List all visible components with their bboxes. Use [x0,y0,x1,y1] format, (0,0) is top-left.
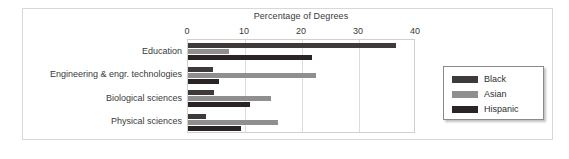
plot-area [187,39,415,133]
legend-swatch [452,106,478,113]
bar[interactable] [188,55,312,60]
bar-group [188,67,414,84]
chart-title: Percentage of Degrees [187,11,415,21]
bar[interactable] [188,79,219,84]
x-axis-tick-label: 10 [239,26,249,36]
legend-swatch [452,91,478,98]
y-axis-category-label: Education [142,46,182,56]
bar[interactable] [188,73,316,78]
legend-label: Asian [484,89,507,99]
legend-item[interactable]: Black [452,72,506,86]
chart-legend: BlackAsianHispanic [443,66,544,120]
y-axis-category-label: Engineering & engr. technologies [50,69,182,79]
legend-swatch [452,76,478,83]
bar[interactable] [188,96,271,101]
x-axis-tick-label: 40 [410,26,420,36]
y-axis-category-labels: EducationEngineering & engr. technologie… [24,39,185,133]
bar[interactable] [188,114,206,119]
bar[interactable] [188,102,250,107]
bar[interactable] [188,43,396,48]
y-axis-category-label: Biological sciences [106,93,182,103]
bar-group [188,90,414,107]
x-axis-tick-label: 20 [296,26,306,36]
legend-label: Hispanic [484,104,519,114]
bar[interactable] [188,49,229,54]
bar-group [188,114,414,131]
legend-item[interactable]: Asian [452,87,507,101]
bar[interactable] [188,67,213,72]
x-axis-tick-label: 0 [184,26,189,36]
bar-group [188,43,414,60]
bar[interactable] [188,126,241,131]
y-axis-category-label: Physical sciences [111,116,182,126]
x-axis-tick-labels: 010203040 [187,26,415,38]
bar[interactable] [188,120,278,125]
legend-item[interactable]: Hispanic [452,102,519,116]
legend-label: Black [484,74,506,84]
chart-figure: Percentage of Degrees 010203040 Educatio… [0,0,569,159]
x-axis-tick-label: 30 [353,26,363,36]
bar[interactable] [188,90,214,95]
